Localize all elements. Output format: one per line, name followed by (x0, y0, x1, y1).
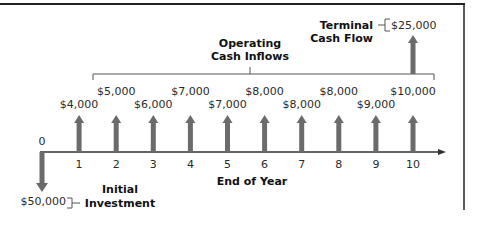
initial-investment-arrow (36, 152, 48, 192)
cash-inflow-arrow (334, 115, 344, 152)
cash-inflow-arrow (74, 115, 84, 152)
year-tick-label: 8 (335, 158, 342, 171)
cash-flow-timeline: Operating Cash Inflows Terminal Cash Flo… (0, 0, 484, 228)
cash-inflow-arrow (260, 115, 270, 152)
initial-value-label: $50,000 (21, 195, 67, 208)
operating-caption-line2: Cash Inflows (211, 50, 290, 63)
cash-inflow-arrow (185, 115, 195, 152)
year-tick-label: 3 (150, 158, 157, 171)
cash-inflow-value-label: $8,000 (320, 85, 359, 98)
cash-inflow-value-label: $8,000 (245, 85, 284, 98)
operating-caption-line1: Operating (219, 37, 281, 50)
axis-arrowhead-icon (438, 149, 446, 155)
terminal-cash-flow-arrow (408, 35, 418, 74)
cash-inflow-value-label: $8,000 (282, 98, 321, 111)
year-tick-label: 4 (187, 158, 194, 171)
cash-inflow-arrow (111, 115, 121, 152)
year-tick-label: 9 (372, 158, 379, 171)
initial-callout-bracket (67, 198, 80, 208)
cash-inflow-arrow (371, 115, 381, 152)
terminal-caption-line1: Terminal (320, 19, 373, 32)
cash-inflow-arrow (408, 115, 418, 152)
cash-inflow-arrow (148, 115, 158, 152)
cash-inflow-value-label: $7,000 (171, 85, 210, 98)
year-tick-label: 5 (224, 158, 231, 171)
year-tick-label: 0 (39, 135, 46, 148)
year-tick-label: 7 (298, 158, 305, 171)
year-tick-label: 6 (261, 158, 268, 171)
initial-caption-line1: Initial (102, 183, 138, 196)
cash-inflow-value-label: $4,000 (60, 98, 99, 111)
terminal-value-label: $25,000 (391, 19, 437, 32)
initial-caption-line2: Investment (85, 197, 155, 210)
cash-inflow-value-label: $10,000 (390, 85, 436, 98)
cash-inflow-arrow (297, 115, 307, 152)
year-tick-label: 2 (113, 158, 120, 171)
x-axis-label: End of Year (217, 175, 288, 188)
cash-inflow-value-label: $6,000 (134, 98, 173, 111)
cash-inflow-arrow (223, 115, 233, 152)
year-tick-label: 1 (76, 158, 83, 171)
cash-inflow-value-label: $9,000 (357, 98, 396, 111)
operating-inflows-bracket (93, 67, 434, 80)
cash-inflow-value-label: $5,000 (97, 85, 136, 98)
terminal-caption-line2: Cash Flow (310, 32, 373, 45)
terminal-callout-bracket (378, 19, 390, 31)
cash-inflow-value-label: $7,000 (208, 98, 247, 111)
year-tick-label: 10 (406, 158, 420, 171)
